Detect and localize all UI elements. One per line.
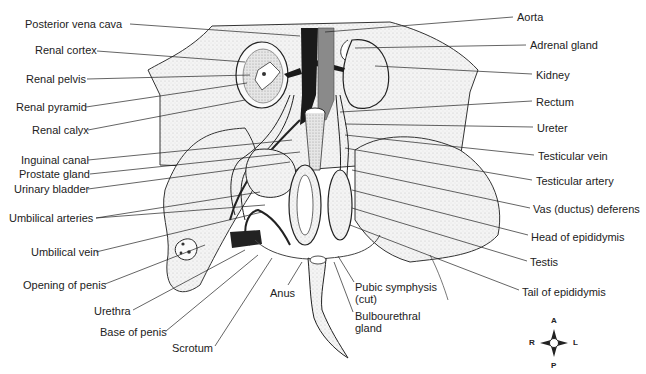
label-renal-pelvis: Renal pelvis: [26, 73, 86, 85]
label-tail-of-epididymis: Tail of epididymis: [522, 286, 606, 298]
label-testicular-vein: Testicular vein: [538, 150, 608, 162]
label-anus: Anus: [270, 287, 295, 299]
label-testicular-artery: Testicular artery: [536, 175, 614, 187]
compass-rose-icon: [540, 329, 568, 357]
label-inguinal-canal: Inguinal canal: [21, 154, 89, 166]
label-renal-calyx: Renal calyx: [32, 124, 89, 136]
label-umbilical-arteries: Umbilical arteries: [9, 212, 93, 224]
compass-anterior-label: A: [551, 316, 557, 325]
leader-anus: [288, 262, 302, 285]
label-renal-cortex: Renal cortex: [35, 44, 97, 56]
compass-left-label: L: [573, 338, 578, 347]
label-urethra: Urethra: [94, 305, 131, 317]
label-kidney: Kidney: [536, 69, 570, 81]
label-opening-of-penis: Opening of penis: [23, 279, 106, 291]
label-aorta: Aorta: [517, 11, 543, 23]
label-ureter: Ureter: [537, 122, 568, 134]
leader-scrotum: [215, 258, 272, 346]
label-base-of-penis: Base of penis: [100, 326, 167, 338]
label-rectum: Rectum: [536, 96, 574, 108]
label-prostate-gland: Prostate gland: [19, 168, 90, 180]
label-pubic-symphysis: Pubic symphysis (cut): [355, 281, 437, 305]
label-umbilical-vein: Umbilical vein: [31, 246, 99, 258]
label-adrenal-gland: Adrenal gland: [530, 39, 598, 51]
compass-posterior-label: P: [551, 361, 556, 370]
label-urinary-bladder: Urinary bladder: [14, 183, 89, 195]
label-testis: Testis: [530, 256, 558, 268]
label-head-of-epididymis: Head of epididymis: [531, 231, 625, 243]
compass-right-label: R: [529, 338, 535, 347]
label-vas-deferens: Vas (ductus) deferens: [533, 203, 640, 215]
label-renal-pyramid: Renal pyramid: [16, 101, 87, 113]
leader-bulbourethral-gland: [334, 262, 353, 312]
label-bulbourethral-gland: Bulbourethral gland: [355, 310, 420, 334]
label-posterior-vena-cava: Posterior vena cava: [25, 18, 122, 30]
label-scrotum: Scrotum: [172, 342, 213, 354]
anatomy-illustration: [0, 0, 646, 374]
aorta: [318, 28, 334, 120]
